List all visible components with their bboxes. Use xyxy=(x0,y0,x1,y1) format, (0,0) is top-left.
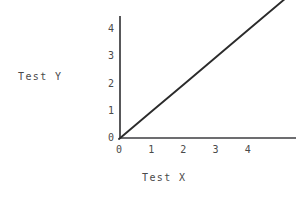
x-tick-label: 1 xyxy=(145,144,157,155)
data-series-layer xyxy=(119,14,296,139)
y-tick-label: 0 xyxy=(104,132,114,143)
plot-area: 01234 01234 xyxy=(119,14,296,139)
x-axis-title: Test X xyxy=(142,172,187,183)
y-tick-label: 1 xyxy=(104,105,114,116)
y-axis-title: Test Y xyxy=(18,71,63,82)
y-tick-label: 2 xyxy=(104,78,114,89)
chart-figure: Test Y Test X 01234 01234 xyxy=(0,0,307,198)
x-tick-label: 4 xyxy=(242,144,254,155)
x-tick-label: 0 xyxy=(113,144,125,155)
y-tick-label: 4 xyxy=(104,23,114,34)
x-tick-label: 3 xyxy=(210,144,222,155)
x-tick-label: 2 xyxy=(177,144,189,155)
y-tick-label: 3 xyxy=(104,50,114,61)
data-line-y-equals-x xyxy=(119,0,296,139)
